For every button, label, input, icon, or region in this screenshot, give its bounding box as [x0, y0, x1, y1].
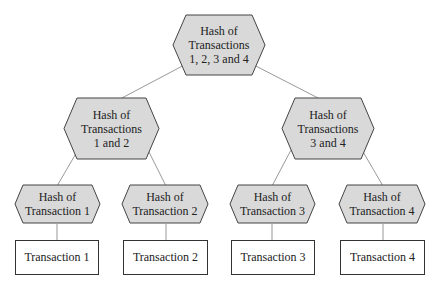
node-label-line2: Transaction 2: [132, 204, 197, 218]
node-label-line1: Hash of: [25, 190, 90, 204]
mid-hash-node-1-2: Hash of Transactions 1 and 2: [63, 97, 160, 160]
root-hash-node: Hash of Transactions 1, 2, 3 and 4: [172, 14, 266, 76]
leaf-hash-node-1: Hash of Transaction 1: [14, 184, 101, 224]
node-label-line2: Transactions: [189, 38, 250, 52]
mid-hash-node-3-4: Hash of Transactions 3 and 4: [281, 97, 375, 160]
node-label-line2: Transaction 4: [349, 204, 414, 218]
node-label-line2: Transactions: [81, 122, 142, 136]
transaction-box-2: Transaction 2: [123, 240, 208, 275]
leaf-hash-node-4: Hash of Transaction 4: [338, 184, 426, 224]
node-label-line3: 1 and 2: [81, 136, 142, 150]
leaf-hash-node-2: Hash of Transaction 2: [121, 184, 209, 224]
node-label-line2: Transaction 1: [25, 204, 90, 218]
leaf-hash-node-3: Hash of Transaction 3: [229, 184, 316, 224]
node-label-line1: Hash of: [240, 190, 305, 204]
node-label-line1: Hash of: [189, 24, 250, 38]
transaction-box-1: Transaction 1: [15, 240, 99, 275]
node-label-line3: 3 and 4: [298, 136, 359, 150]
node-label-line2: Transaction 3: [240, 204, 305, 218]
node-label-line1: Hash of: [132, 190, 197, 204]
node-label-line1: Hash of: [298, 108, 359, 122]
node-label-line1: Hash of: [349, 190, 414, 204]
transaction-box-3: Transaction 3: [231, 240, 315, 275]
node-label-line2: Transactions: [298, 122, 359, 136]
node-label-line1: Hash of: [81, 108, 142, 122]
node-label-line3: 1, 2, 3 and 4: [189, 52, 250, 66]
transaction-box-4: Transaction 4: [340, 240, 425, 275]
